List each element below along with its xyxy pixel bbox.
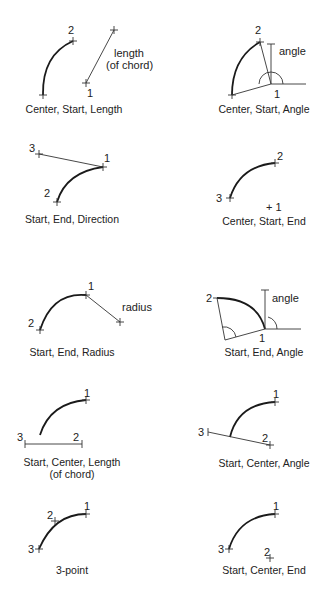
panel-start-end-angle: 2 1 angle Start, End, Angle <box>206 290 304 358</box>
caption-line-2: (of chord) <box>50 468 95 480</box>
caption: 3-point <box>56 564 88 576</box>
chord-length-line <box>86 30 114 83</box>
point-label-2: 2 <box>255 24 261 36</box>
point-label-3: 3 <box>28 543 34 555</box>
caption: Start, End, Radius <box>29 346 114 358</box>
caption: Center, Start, End <box>222 215 306 227</box>
caption: Start, End, Angle <box>225 346 304 358</box>
point-label-1-center: + 1 <box>266 201 282 213</box>
panel-start-center-length: 1 3 2 Start, Center, Length (of chord) <box>17 387 121 480</box>
caption: Start, Center, End <box>222 564 306 576</box>
annotation-of-chord: (of chord) <box>106 59 153 71</box>
arc-methods-diagram: 2 1 length (of chord) Center, Start, Len… <box>0 0 319 605</box>
panel-start-end-direction: 3 1 2 Start, End, Direction <box>25 142 119 225</box>
point-label-2: 2 <box>44 187 50 199</box>
point-label-1: 1 <box>259 332 265 344</box>
panel-center-start-length: 2 1 length (of chord) Center, Start, Len… <box>26 24 154 115</box>
point-label-1: 1 <box>273 388 279 400</box>
annotation-angle: angle <box>272 292 299 304</box>
arc <box>232 42 260 95</box>
point-label-3: 3 <box>29 142 35 154</box>
point-label-2: 2 <box>73 431 79 443</box>
arc <box>229 514 275 549</box>
point-label-1: 1 <box>88 280 94 292</box>
panel-3-point: 1 2 3 3-point <box>28 500 90 576</box>
point-label-1: 1 <box>274 88 280 100</box>
annotation-length: length <box>114 47 144 59</box>
point-label-3: 3 <box>17 431 23 443</box>
point-label-1: 1 <box>87 87 93 99</box>
arc <box>217 298 265 329</box>
point-label-2: 2 <box>47 509 53 521</box>
point-label-1: 1 <box>84 500 90 512</box>
panel-start-end-radius: 1 2 radius Start, End, Radius <box>28 280 152 358</box>
radius-line <box>86 295 120 322</box>
arc <box>57 167 103 202</box>
annotation-angle: angle <box>279 45 306 57</box>
arc <box>230 402 275 437</box>
arc <box>43 41 73 95</box>
point-label-1: 1 <box>104 152 110 164</box>
point-label-2: 2 <box>206 292 212 304</box>
point-label-3: 3 <box>198 426 204 438</box>
point-label-2: 2 <box>68 24 74 36</box>
point-label-1: 1 <box>84 387 90 399</box>
point-label-2: 2 <box>28 317 34 329</box>
point-label-2: 2 <box>264 546 270 558</box>
panel-center-start-angle: 2 1 angle Center, Start, Angle <box>218 24 309 115</box>
caption: Start, Center, Angle <box>218 457 309 469</box>
angle-arc <box>268 317 277 329</box>
panel-start-center-end: 1 3 2 Start, Center, End <box>218 500 306 576</box>
panel-start-center-angle: 1 3 2 Start, Center, Angle <box>198 388 310 469</box>
panel-center-start-end: 2 3 + 1 Center, Start, End <box>216 150 306 227</box>
point-label-3: 3 <box>218 543 224 555</box>
caption: Start, Center, Length <box>24 456 121 468</box>
caption: Center, Start, Angle <box>218 103 309 115</box>
arc <box>230 163 275 198</box>
point-label-2: 2 <box>277 150 283 162</box>
caption: Center, Start, Length <box>26 103 123 115</box>
point-label-3: 3 <box>216 192 222 204</box>
point-label-1: 1 <box>273 500 279 512</box>
point-label-2: 2 <box>262 432 268 444</box>
arc <box>40 295 86 330</box>
arc <box>40 400 86 435</box>
caption: Start, End, Direction <box>25 213 119 225</box>
annotation-radius: radius <box>122 301 152 313</box>
